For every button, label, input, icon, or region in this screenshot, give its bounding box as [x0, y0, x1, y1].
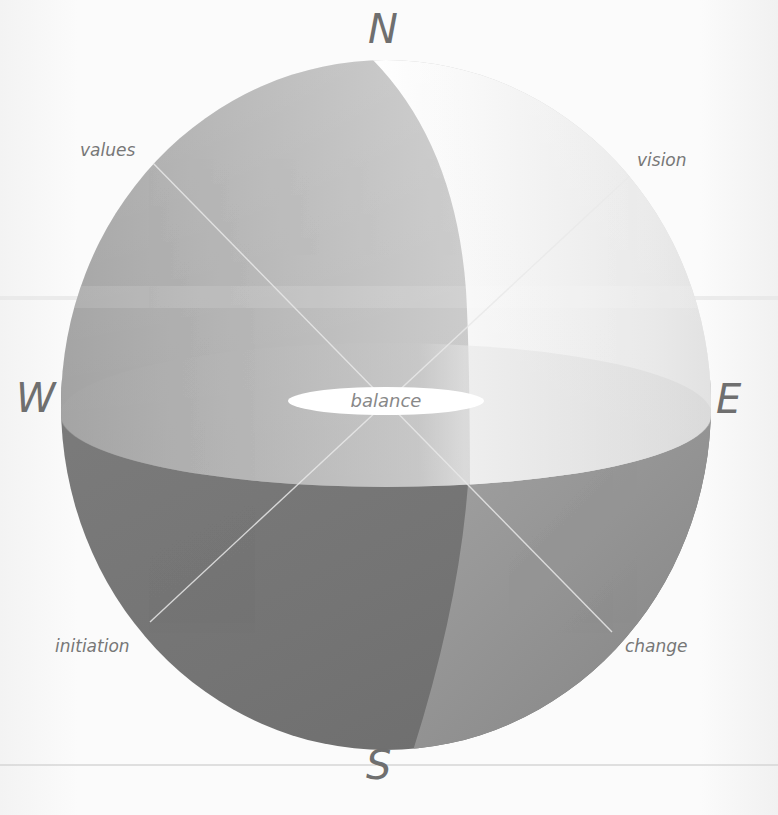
horizon-band	[0, 286, 778, 308]
compass-east-label: E	[716, 376, 741, 422]
compass-north-label: N	[368, 6, 398, 52]
compass-west-label: W	[16, 375, 56, 421]
quadrant-label-initiation: initiation	[55, 636, 130, 656]
center-label-balance: balance	[288, 387, 484, 415]
compass-south-label: S	[366, 742, 391, 788]
quadrant-label-vision: vision	[637, 150, 687, 170]
quadrant-label-change: change	[625, 636, 688, 656]
quadrant-label-values: values	[80, 140, 135, 160]
